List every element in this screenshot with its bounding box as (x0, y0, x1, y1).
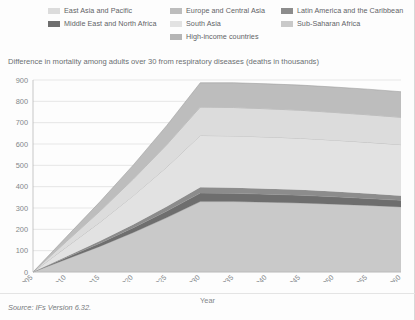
x-axis-tick-label: 2050 (318, 273, 336, 282)
legend-item-label: Middle East and North Africa (64, 19, 157, 28)
stacked-area-plot: 0100200300400500600700800900200520102015… (0, 72, 415, 282)
legend-item-south-asia[interactable]: South Asia (170, 19, 221, 28)
legend-item-east-asia-and-pacific[interactable]: East Asia and Pacific (48, 6, 132, 15)
x-axis-tick-label: 2025 (151, 273, 169, 282)
x-axis-tick-label: 2015 (84, 273, 102, 282)
legend-item-sub-saharan-africa[interactable]: Sub-Saharan Africa (281, 19, 360, 28)
y-axis-tick-label: 700 (16, 118, 28, 127)
legend-swatch-icon (281, 21, 293, 27)
plot-area: 0100200300400500600700800900200520102015… (0, 72, 415, 282)
legend-item-label: Europe and Central Asia (186, 6, 265, 15)
legend-item-label: High-income countries (186, 32, 259, 41)
legend-item-middle-east-and-north-africa[interactable]: Middle East and North Africa (48, 19, 157, 28)
legend-item-high-income-countries[interactable]: High-income countries (170, 32, 259, 41)
x-axis-tick-label: 2030 (184, 273, 202, 282)
x-axis-tick-label: 2040 (251, 273, 269, 282)
y-axis-tick-label: 100 (16, 246, 28, 255)
chart-legend: East Asia and PacificEurope and Central … (0, 4, 415, 52)
y-axis-tick-label: 500 (16, 161, 28, 170)
x-axis-tick-label: 2020 (117, 273, 135, 282)
y-axis-tick-label: 300 (16, 204, 28, 213)
y-axis-tick-label: 600 (16, 140, 28, 149)
x-axis-tick-label: 2060 (385, 273, 403, 282)
legend-swatch-icon (281, 8, 293, 14)
x-axis-tick-label: 2055 (351, 273, 369, 282)
legend-swatch-icon (48, 21, 60, 27)
source-note: Source: IFs Version 6.32. (8, 303, 91, 312)
legend-swatch-icon (48, 8, 60, 14)
x-axis-tick-label: 2010 (50, 273, 68, 282)
y-axis-tick-label: 400 (16, 182, 28, 191)
y-axis-tick-label: 900 (16, 76, 28, 85)
legend-swatch-icon (170, 21, 182, 27)
legend-item-label: Sub-Saharan Africa (297, 19, 360, 28)
legend-item-label: East Asia and Pacific (64, 6, 132, 15)
footer-divider (0, 293, 415, 294)
x-axis-tick-label: 2035 (217, 273, 235, 282)
legend-item-label: South Asia (186, 19, 221, 28)
legend-swatch-icon (170, 8, 182, 14)
y-axis-tick-label: 800 (16, 97, 28, 106)
y-axis-tick-label: 200 (16, 225, 28, 234)
legend-item-label: Latin America and the Caribbean (297, 6, 403, 15)
chart-title: Difference in mortality among adults ove… (8, 57, 319, 66)
legend-item-latin-america-and-the-caribbean[interactable]: Latin America and the Caribbean (281, 6, 403, 15)
legend-item-europe-and-central-asia[interactable]: Europe and Central Asia (170, 6, 265, 15)
x-axis-tick-label: 2005 (17, 273, 35, 282)
legend-swatch-icon (170, 34, 182, 40)
chart-frame: East Asia and PacificEurope and Central … (0, 0, 415, 320)
x-axis-tick-label: 2045 (284, 273, 302, 282)
